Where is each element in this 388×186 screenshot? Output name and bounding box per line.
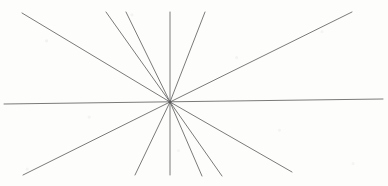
ray-upper-right-shallow xyxy=(170,12,352,102)
ray-horizontal xyxy=(4,99,383,104)
ray-lower-right-steep-b xyxy=(170,102,202,176)
convergence-point xyxy=(168,100,171,103)
ray-lower-left-steep xyxy=(135,102,170,175)
ray-upper-right-steep xyxy=(170,12,205,102)
figure-canvas xyxy=(0,0,388,186)
ray-group xyxy=(4,12,383,176)
radiating-lines-svg xyxy=(0,0,388,186)
ray-upper-left-steep-a xyxy=(106,12,170,102)
ray-lower-right-shallow xyxy=(170,102,292,172)
ray-lower-left-shallow xyxy=(23,102,170,175)
ray-lower-right-steep-a xyxy=(170,102,222,176)
